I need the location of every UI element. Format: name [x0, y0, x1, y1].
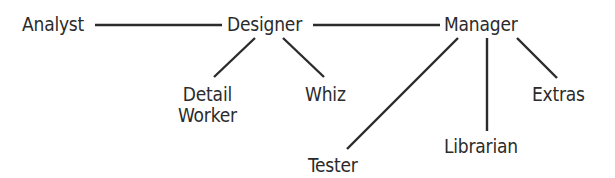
node-librarian: Librarian [444, 136, 518, 157]
node-whiz: Whiz [305, 84, 346, 105]
edge-manager-extras [517, 38, 557, 78]
org-diagram: Analyst Designer Manager Detail Worker W… [0, 0, 615, 178]
node-manager: Manager [444, 14, 518, 35]
node-label: Whiz [305, 84, 346, 105]
node-label-line-1: Detail [178, 84, 237, 105]
edge-designer-whiz [283, 38, 324, 77]
node-label: Tester [308, 155, 358, 176]
node-label: Manager [444, 14, 518, 35]
node-tester: Tester [308, 155, 358, 176]
node-label-line-2: Worker [178, 105, 237, 126]
node-label: Librarian [444, 136, 518, 157]
node-label: Extras [532, 84, 585, 105]
edge-manager-tester [347, 38, 458, 149]
node-label: Designer [227, 14, 302, 35]
node-label: Analyst [22, 14, 84, 35]
node-analyst: Analyst [22, 14, 84, 35]
node-designer: Designer [227, 14, 302, 35]
edge-designer-detail-worker [214, 38, 255, 77]
node-detail-worker: Detail Worker [178, 84, 237, 126]
node-extras: Extras [532, 84, 585, 105]
